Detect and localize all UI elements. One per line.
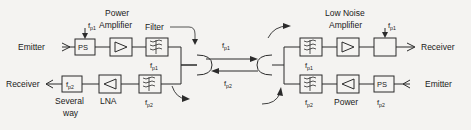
right-ps-sub: p2 xyxy=(379,102,385,108)
link-rev-sub: p2 xyxy=(226,83,232,89)
power-amplifier-line2: Amplifier xyxy=(99,20,132,30)
transceiver-block-diagram: PS fp1 Power Amplifier Filter xyxy=(0,0,471,130)
right-bottom-filter-block[interactable] xyxy=(300,75,322,93)
svg-text:fp2: fp2 xyxy=(377,98,385,108)
left-top-ps-label: PS xyxy=(78,43,88,52)
right-ps-label: PS xyxy=(377,80,387,89)
left-filter-top-freq-label: fp1 xyxy=(150,61,158,71)
right-filter-top-freq-label: fp1 xyxy=(305,61,313,71)
svg-text:fp2: fp2 xyxy=(305,98,313,108)
left-lna-block[interactable] xyxy=(99,75,121,93)
right-bottom-curved-arrow xyxy=(262,87,283,104)
svg-text:fp1: fp1 xyxy=(222,41,230,51)
left-power-amplifier-block[interactable] xyxy=(110,38,132,56)
right-lna-block[interactable] xyxy=(322,38,374,56)
power-amplifier-line1: Power xyxy=(105,8,129,18)
left-splitter-sub: p2 xyxy=(68,84,74,90)
low-noise-line1: Low Noise xyxy=(325,8,365,18)
right-antenna xyxy=(257,55,284,75)
left-bottom-filter-block[interactable] xyxy=(139,75,161,93)
several-way-label: Several way xyxy=(55,96,84,118)
diagram-canvas: PS fp1 Power Amplifier Filter xyxy=(0,0,471,130)
svg-text:fp1: fp1 xyxy=(150,61,158,71)
right-filter-bottom-freq-label: fp2 xyxy=(305,98,313,108)
right-combiner-freq-input: fp1 xyxy=(382,21,396,38)
low-noise-amplifier-label: Low Noise Amplifier xyxy=(325,8,365,30)
right-power-amplifier-block[interactable] xyxy=(322,75,374,93)
link-reverse-arrow: fp2 xyxy=(211,68,258,89)
several-way-line1: Several xyxy=(55,96,84,106)
right-ps-freq-label: fp2 xyxy=(377,98,385,108)
left-antenna xyxy=(197,55,212,75)
left-filter-bottom-freq-label: fp2 xyxy=(145,98,153,108)
svg-text:fp2: fp2 xyxy=(224,79,232,89)
left-bottom-splitter-block[interactable]: fp2 xyxy=(62,76,82,92)
right-receiver-terminal: Receiver xyxy=(421,42,455,52)
right-filt-top-sub: p1 xyxy=(307,65,313,71)
left-emitter-terminal: Emitter xyxy=(18,42,45,52)
left-top-ps-freq-input: fp1 xyxy=(82,21,96,39)
left-top-ps-block[interactable]: PS xyxy=(75,39,95,55)
right-power-label: Power xyxy=(334,97,358,107)
several-way-line2: way xyxy=(62,108,79,118)
svg-text:fp1: fp1 xyxy=(88,21,96,31)
svg-text:fp2: fp2 xyxy=(145,98,153,108)
left-filt-bot-sub: p2 xyxy=(147,102,153,108)
right-bus xyxy=(284,47,300,84)
link-fwd-sub: p1 xyxy=(224,45,230,51)
svg-text:fp1: fp1 xyxy=(305,61,313,71)
right-emitter-terminal: Emitter xyxy=(425,79,452,89)
link-forward-arrow: fp1 xyxy=(206,41,258,62)
right-top-combiner-block[interactable] xyxy=(374,38,415,56)
right-filt-bot-sub: p2 xyxy=(307,102,313,108)
low-noise-line2: Amplifier xyxy=(329,20,362,30)
right-bottom-ps-block[interactable]: PS xyxy=(374,76,410,92)
left-top-filter-block[interactable] xyxy=(146,38,168,56)
svg-text:fp1: fp1 xyxy=(388,21,396,31)
right-top-curved-arrow xyxy=(268,23,291,38)
right-comb-sub: p1 xyxy=(390,25,396,31)
left-receiver-terminal: Receiver xyxy=(6,79,40,89)
power-amplifier-label: Power Amplifier xyxy=(99,8,132,30)
lna-label: LNA xyxy=(100,96,117,106)
left-bottom-curved-arrow xyxy=(172,86,190,102)
left-filt-top-sub: p1 xyxy=(152,65,158,71)
left-ps-freq-sub: p1 xyxy=(90,25,96,31)
right-top-filter-block[interactable] xyxy=(300,38,322,56)
filter-label: Filter xyxy=(145,22,164,32)
